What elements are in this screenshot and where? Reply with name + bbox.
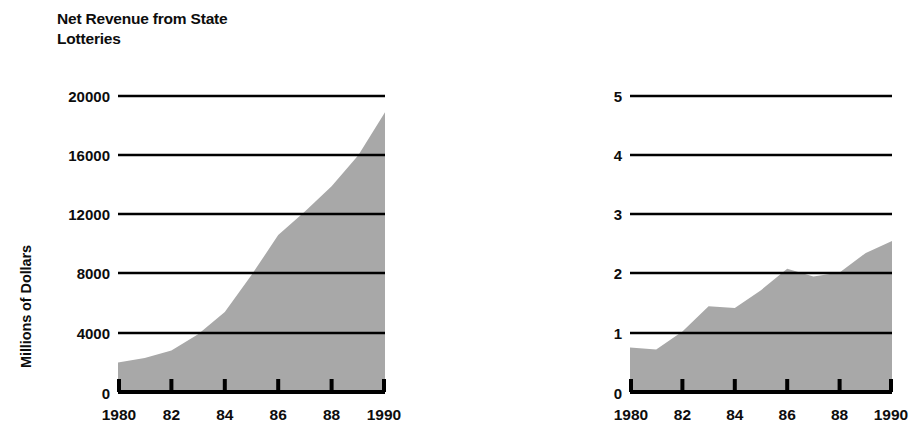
plot-area-gross-receipts: 5 4 3 2 1 0 1980 82 84 86 88 1990: [460, 0, 923, 436]
x-tick-label: 86: [779, 406, 797, 423]
y-tick-label: 20000: [68, 88, 110, 105]
x-tick-labels-gross-receipts: 1980 82 84 86 88 1990: [614, 406, 908, 423]
y-tick-label: 5: [614, 88, 622, 105]
area-series-gross-receipts: [630, 241, 892, 392]
x-tick-label: 86: [270, 406, 288, 423]
y-tick-label: 1: [614, 325, 622, 342]
x-tick-label: 1980: [614, 406, 648, 423]
net-revenue-svg: 20000 16000 12000 8000 4000 0 1980 82 84…: [0, 0, 460, 436]
x-tick-label: 82: [674, 406, 691, 423]
y-tick-label: 0: [614, 385, 622, 402]
x-tick-label: 88: [831, 406, 849, 423]
chart-panel-net-revenue: Net Revenue from State Lotteries Million…: [0, 0, 460, 436]
plot-area-net-revenue: 20000 16000 12000 8000 4000 0 1980 82 84…: [0, 0, 460, 436]
x-tick-label: 84: [216, 406, 234, 423]
y-tick-label: 0: [102, 385, 110, 402]
chart-panel-gross-receipts: Gross Receipts as a Percentage of All St…: [460, 0, 923, 436]
y-tick-label: 12000: [68, 206, 110, 223]
y-tick-label: 4000: [77, 325, 110, 342]
figure-two-panel-charts: Net Revenue from State Lotteries Million…: [0, 0, 923, 436]
x-tick-label: 1990: [367, 406, 401, 423]
y-tick-labels-net-revenue: 20000 16000 12000 8000 4000 0: [68, 88, 110, 402]
y-tick-label: 8000: [77, 265, 110, 282]
y-tick-label: 3: [614, 206, 622, 223]
x-tick-label: 1990: [874, 406, 908, 423]
y-tick-label: 2: [614, 265, 622, 282]
y-tick-label: 4: [614, 147, 623, 164]
x-tick-label: 82: [163, 406, 180, 423]
gross-receipts-svg: 5 4 3 2 1 0 1980 82 84 86 88 1990: [460, 0, 923, 436]
x-tick-label: 84: [726, 406, 744, 423]
y-tick-labels-gross-receipts: 5 4 3 2 1 0: [614, 88, 623, 402]
y-tick-label: 16000: [68, 147, 110, 164]
x-tick-labels-net-revenue: 1980 82 84 86 88 1990: [102, 406, 401, 423]
x-tick-label: 1980: [102, 406, 136, 423]
x-tick-label: 88: [323, 406, 341, 423]
